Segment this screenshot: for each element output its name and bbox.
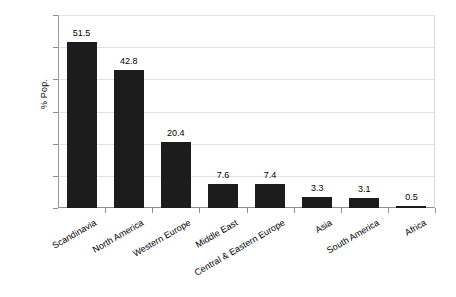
bar[interactable]	[208, 184, 238, 208]
bar[interactable]	[114, 70, 144, 208]
bar-value-label: 51.5	[73, 29, 91, 38]
bar-slot: 7.4	[247, 15, 294, 208]
bar-slot: 42.8	[105, 15, 152, 208]
bar-slot: 7.6	[199, 15, 246, 208]
bar-slot: 20.4	[152, 15, 199, 208]
bar[interactable]	[302, 197, 332, 208]
x-axis-tick-mark	[388, 208, 389, 213]
bar-value-label: 3.3	[311, 184, 324, 193]
bar[interactable]	[67, 42, 97, 208]
y-axis-title: % Pop.	[39, 59, 49, 129]
bar-slot: 3.1	[341, 15, 388, 208]
x-axis-tick-mark	[199, 208, 200, 213]
bar-value-label: 3.1	[358, 185, 371, 194]
x-axis-tick-mark	[294, 208, 295, 213]
bar-slot: 51.5	[58, 15, 105, 208]
x-axis-tick-mark	[152, 208, 153, 213]
bar-slot: 3.3	[294, 15, 341, 208]
bar[interactable]	[396, 206, 426, 208]
x-axis-category-label: Scandinavia	[10, 218, 98, 274]
x-axis-tick-mark	[435, 208, 436, 213]
x-axis-tick-mark	[105, 208, 106, 213]
bar[interactable]	[349, 198, 379, 208]
bar[interactable]	[161, 142, 191, 208]
bar-value-label: 42.8	[120, 57, 138, 66]
bars-layer: 51.542.820.47.67.43.33.10.5	[58, 15, 435, 208]
bar[interactable]	[255, 184, 285, 208]
bar-value-label: 0.5	[405, 193, 418, 202]
y-axis-tick-mark	[53, 208, 58, 209]
bar-value-label: 7.6	[217, 171, 230, 180]
x-axis-tick-mark	[341, 208, 342, 213]
bar-slot: 0.5	[388, 15, 435, 208]
bar-value-label: 7.4	[264, 171, 277, 180]
bar-chart: % Pop. 0.010.020.030.040.050.060.0 51.54…	[0, 0, 456, 297]
x-axis-tick-mark	[247, 208, 248, 213]
bar-value-label: 20.4	[167, 129, 185, 138]
